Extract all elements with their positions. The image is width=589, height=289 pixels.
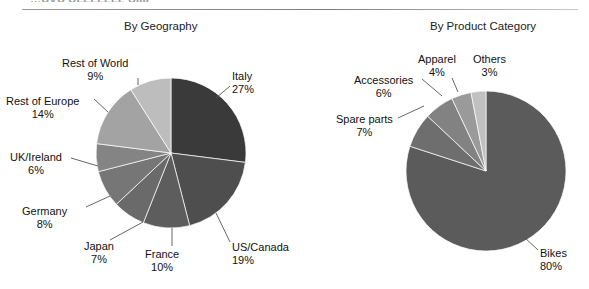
pie-label-japan: Japan7% bbox=[84, 240, 114, 265]
leader-line-accessories bbox=[422, 79, 442, 96]
pie-label-name-us-canada: US/Canada bbox=[232, 241, 289, 253]
pie-label-name-apparel: Apparel bbox=[418, 53, 456, 65]
pie-label-value-spare-parts: 7% bbox=[336, 126, 393, 139]
pie-label-accessories: Accessories6% bbox=[354, 74, 413, 99]
pie-label-value-others: 3% bbox=[473, 66, 506, 79]
pie-label-value-rest-of-world: 9% bbox=[62, 70, 128, 83]
pie-label-apparel: Apparel4% bbox=[418, 53, 456, 78]
pie-label-uk-ireland: UK/Ireland6% bbox=[10, 151, 62, 176]
pie-label-others: Others3% bbox=[473, 53, 506, 78]
pie-label-value-japan: 7% bbox=[84, 253, 114, 266]
figure-canvas: …UVU ULLLLLLL UIIII By Geography By Prod… bbox=[0, 0, 589, 289]
pie-label-bikes: Bikes80% bbox=[540, 247, 567, 272]
leader-line-italy bbox=[216, 86, 230, 98]
pie-label-spare-parts: Spare parts7% bbox=[336, 113, 393, 138]
pie-label-name-germany: Germany bbox=[22, 205, 67, 217]
pie-label-france: France10% bbox=[145, 248, 179, 273]
pie-label-value-accessories: 6% bbox=[354, 87, 413, 100]
pie-label-value-italy: 27% bbox=[232, 83, 254, 96]
pie-label-value-rest-of-europe: 14% bbox=[6, 108, 79, 121]
pie-label-value-france: 10% bbox=[145, 261, 179, 274]
pie-label-name-italy: Italy bbox=[232, 70, 252, 82]
pie-label-value-uk-ireland: 6% bbox=[10, 164, 62, 177]
pie-label-rest-of-europe: Rest of Europe14% bbox=[6, 95, 79, 120]
pie-label-name-rest-of-europe: Rest of Europe bbox=[6, 95, 79, 107]
pie-label-value-us-canada: 19% bbox=[232, 254, 289, 267]
leader-line-japan bbox=[110, 222, 143, 240]
pie-label-name-others: Others bbox=[473, 53, 506, 65]
pie-label-name-rest-of-world: Rest of World bbox=[62, 57, 128, 69]
pie-label-name-uk-ireland: UK/Ireland bbox=[10, 151, 62, 163]
pie-label-rest-of-world: Rest of World9% bbox=[62, 57, 128, 82]
pie-label-value-germany: 8% bbox=[22, 218, 67, 231]
pie-label-value-bikes: 80% bbox=[540, 260, 567, 273]
pie-by-geography bbox=[96, 78, 246, 228]
leader-line-rest-of-europe bbox=[94, 99, 108, 112]
leader-line-bikes bbox=[524, 237, 538, 250]
pie-label-germany: Germany8% bbox=[22, 205, 67, 230]
pie-label-name-france: France bbox=[145, 248, 179, 260]
leader-line-spare-parts bbox=[398, 106, 424, 118]
pie-label-name-spare-parts: Spare parts bbox=[336, 113, 393, 125]
leader-line-germany bbox=[86, 196, 110, 207]
pie-label-italy: Italy27% bbox=[232, 70, 254, 95]
leader-line-us-canada bbox=[216, 213, 230, 242]
pie-label-us-canada: US/Canada19% bbox=[232, 241, 289, 266]
pie-label-name-accessories: Accessories bbox=[354, 74, 413, 86]
pie-by-product-category bbox=[406, 91, 566, 251]
pie-label-name-bikes: Bikes bbox=[540, 247, 567, 259]
leader-line-uk-ireland bbox=[71, 158, 98, 166]
leader-line-apparel bbox=[452, 78, 458, 92]
pie-label-name-japan: Japan bbox=[84, 240, 114, 252]
pie-label-value-apparel: 4% bbox=[418, 66, 456, 79]
